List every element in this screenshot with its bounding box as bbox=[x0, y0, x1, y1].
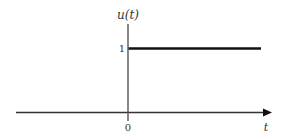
x-tick-0: 0 bbox=[125, 122, 131, 133]
x-axis-arrow-icon bbox=[263, 109, 272, 117]
y-axis-label: u(t) bbox=[117, 8, 139, 22]
unit-step-chart: u(t) 1 0 t bbox=[0, 0, 282, 140]
x-axis-label: t bbox=[264, 121, 269, 134]
y-tick-1: 1 bbox=[119, 43, 125, 54]
